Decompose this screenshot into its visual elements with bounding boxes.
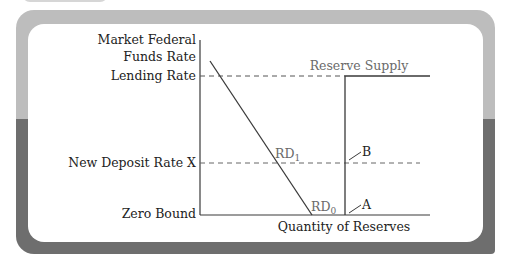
rd1-label: RD1 bbox=[275, 146, 300, 163]
reserve-market-diagram: Market Federal Funds Rate Lending Rate N… bbox=[0, 0, 508, 269]
reserve-supply-curve bbox=[345, 76, 430, 215]
x-axis-title: Quantity of Reserves bbox=[278, 219, 410, 234]
rd0-label: RD0 bbox=[311, 199, 336, 216]
reserve-demand-curve bbox=[210, 61, 312, 215]
zero-bound-label: Zero Bound bbox=[122, 206, 196, 221]
point-b-leader bbox=[349, 152, 361, 160]
point-b-label: B bbox=[362, 144, 371, 159]
reserve-supply-label: Reserve Supply bbox=[310, 58, 410, 73]
point-a-label: A bbox=[361, 197, 372, 212]
point-a-leader bbox=[349, 205, 361, 213]
y-axis-title-line1: Market Federal bbox=[98, 32, 196, 47]
lending-rate-label: Lending Rate bbox=[111, 68, 196, 83]
deposit-rate-label: New Deposit Rate X bbox=[68, 155, 196, 170]
y-axis-title-line2: Funds Rate bbox=[123, 49, 196, 64]
